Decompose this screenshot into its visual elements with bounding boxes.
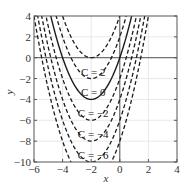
y-tick-label: 2 <box>26 31 32 43</box>
curve-label: C = −4 <box>78 128 109 140</box>
curve-label: C = −6 <box>78 149 109 161</box>
x-tick-label: −4 <box>57 163 69 175</box>
y-tick-label: −4 <box>19 93 31 105</box>
y-tick-label: 4 <box>26 10 32 22</box>
x-tick-label: −2 <box>85 163 97 175</box>
curve-neg2 <box>34 0 177 120</box>
y-tick-label: −8 <box>19 135 31 147</box>
curve-4 <box>34 0 177 58</box>
curve-label: C = −2 <box>78 107 109 119</box>
y-tick-label: −10 <box>14 156 32 168</box>
x-tick-label: 4 <box>174 163 180 175</box>
x-tick-label: 2 <box>146 163 152 175</box>
curve-labels: C = 2C = 0C = −2C = −4C = −6 <box>78 66 109 161</box>
y-tick-label: −2 <box>19 73 31 85</box>
curve-label: C = 0 <box>81 86 106 98</box>
y-tick-label: −6 <box>19 114 31 126</box>
curve-2 <box>34 0 177 79</box>
curve-0 <box>34 0 177 99</box>
y-axis-label: y <box>3 89 15 95</box>
x-tick-label: 0 <box>117 163 123 175</box>
y-tick-label: 0 <box>26 52 32 64</box>
curve-label: C = 2 <box>81 66 106 78</box>
x-axis-label: x <box>103 172 109 184</box>
chart: −6−4−2024420−2−4−6−8−10 C = 2C = 0C = −2… <box>0 0 190 186</box>
